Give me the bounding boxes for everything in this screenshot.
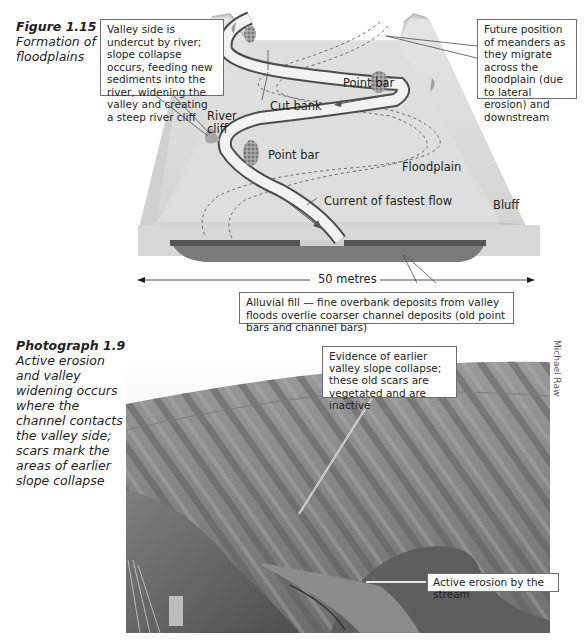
valley-photograph: [0, 0, 584, 643]
photo-credit: Michael Raw: [552, 340, 562, 396]
earlier-collapse-callout: Evidence of earlier valley slope collaps…: [322, 346, 457, 398]
fence-post: [169, 596, 183, 626]
active-erosion-callout: Active erosion by the stream: [427, 573, 559, 592]
